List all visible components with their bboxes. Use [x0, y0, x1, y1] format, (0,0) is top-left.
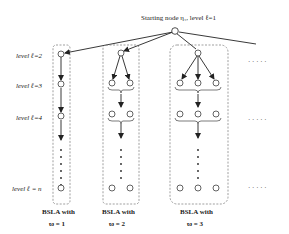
level-label-4: level ℓ=4: [16, 114, 43, 122]
caption-beam-3-line2: ϖ = 3: [187, 220, 204, 228]
caption-beam-2-line2: ϖ = 2: [109, 220, 126, 228]
column-beam-3: [170, 45, 228, 204]
level-label-n: level ℓ = n: [12, 185, 42, 193]
root-node: [172, 28, 179, 35]
column-beam-1: [53, 45, 70, 204]
caption-beam-1-line1: BSLA with: [42, 208, 75, 216]
root-label: Starting node η₁, level ℓ=1: [141, 14, 217, 22]
level-label-3: level ℓ=3: [16, 82, 43, 90]
ellipsis-level-2: · · · · ·: [248, 58, 267, 66]
caption-beam-2-line1: BSLA with: [102, 208, 135, 216]
ellipsis-level-4: · · · · ·: [248, 116, 267, 124]
column-beam-2: [103, 45, 139, 204]
caption-beam-3-line1: BSLA with: [180, 208, 213, 216]
caption-beam-1-line2: ϖ = 1: [49, 220, 66, 228]
ellipsis-level-n: · · · · ·: [248, 184, 267, 192]
level-label-2: level ℓ=2: [16, 52, 43, 60]
bsla-tree-diagram: Starting node η₁, level ℓ=1 level ℓ=2 le…: [0, 0, 289, 234]
